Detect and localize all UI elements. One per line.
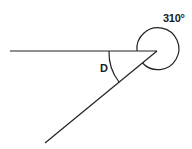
interior-angle-label: D [100, 63, 108, 74]
reflex-angle-label: 310° [163, 13, 185, 24]
interior-angle-arc [109, 51, 119, 82]
reflex-angle-arc [137, 28, 179, 70]
